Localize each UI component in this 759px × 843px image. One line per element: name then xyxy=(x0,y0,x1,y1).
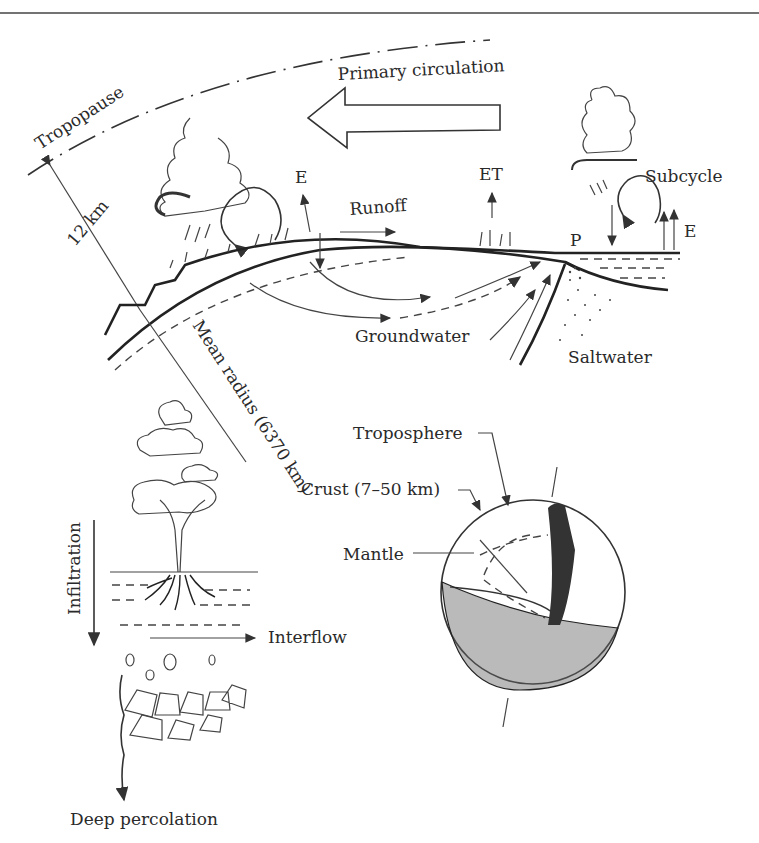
primary-circulation-label: Primary circulation xyxy=(337,55,505,84)
crust-label: Crust (7–50 km) xyxy=(301,479,440,499)
groundwater-flow-2 xyxy=(310,262,430,300)
soil-dashes xyxy=(112,585,255,625)
troposphere-label: Troposphere xyxy=(353,423,463,443)
interflow-label: Interflow xyxy=(268,627,347,647)
cloud-right-icon xyxy=(572,87,637,195)
groundwater-flow-5 xyxy=(490,290,535,340)
rocks-icon xyxy=(125,654,246,740)
evapotranspiration-label: ET xyxy=(479,164,503,184)
runoff-label: Runoff xyxy=(349,195,409,219)
evaporation-land-label: E xyxy=(295,167,307,187)
groundwater-flow-1 xyxy=(250,283,390,318)
infiltration-label: Infiltration xyxy=(64,522,84,615)
evaporation-land-arrow xyxy=(303,195,310,232)
land-surface xyxy=(105,239,680,335)
sea-bed xyxy=(565,262,668,290)
evaporation-sea-label: E xyxy=(684,221,696,241)
earth-globe-icon xyxy=(441,467,625,727)
saltwater-label: Saltwater xyxy=(568,347,653,367)
tree-icon xyxy=(132,401,217,572)
mantle-label: Mantle xyxy=(343,544,404,564)
groundwater-flow-4 xyxy=(455,262,540,298)
land-subsurface xyxy=(108,247,580,360)
troposphere-leader xyxy=(478,433,508,505)
primary-circulation-arrow xyxy=(308,88,500,148)
tropopause-label: Tropopause xyxy=(31,81,127,153)
saltwater-interface xyxy=(520,264,565,365)
deep-percolation-arrow xyxy=(120,675,124,800)
cloud-left-icon xyxy=(156,118,249,242)
precipitation-label: P xyxy=(570,230,581,250)
hydrologic-cycle-diagram: Tropopause Primary circulation 12 km E R… xyxy=(0,0,759,843)
deep-percolation-label: Deep percolation xyxy=(70,809,218,829)
height-12km-label: 12 km xyxy=(63,196,113,250)
crust-leader xyxy=(458,490,480,510)
groundwater-label: Groundwater xyxy=(355,326,470,346)
groundwater-flow-3 xyxy=(400,277,520,318)
water-table xyxy=(115,257,410,370)
subcycle-loop xyxy=(618,176,660,223)
subcycle-label: Subcycle xyxy=(645,166,723,186)
